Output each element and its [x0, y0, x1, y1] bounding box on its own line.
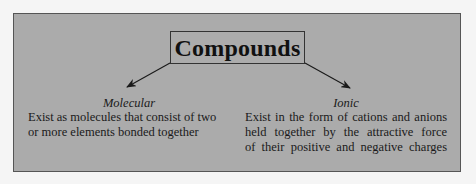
title-box: Compounds: [170, 31, 305, 64]
molecular-description-line: Exist as molecules that consist of two: [28, 110, 233, 125]
ionic-description-line: Exist in the form of cations and anions: [245, 110, 447, 125]
molecular-description: Exist as molecules that consist of two o…: [28, 110, 233, 140]
molecular-description-line: or more elements bonded together: [28, 125, 233, 140]
ionic-description-line: held together by the attractive force: [245, 125, 447, 140]
ionic-label: Ionic: [245, 97, 447, 110]
diagram-canvas: Compounds Molecular Exist as molecules t…: [0, 0, 476, 184]
diagram-title: Compounds: [175, 36, 301, 60]
ionic-description: Exist in the form of cations and anions …: [245, 110, 447, 155]
molecular-label: Molecular: [28, 97, 230, 110]
ionic-description-line: of their positive and negative charges: [245, 140, 447, 155]
